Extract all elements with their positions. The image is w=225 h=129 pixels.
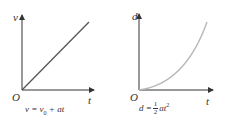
displacement-y-label: d bbox=[132, 11, 138, 22]
displacement-x-label: t bbox=[206, 96, 209, 107]
eq-sup: 2 bbox=[166, 102, 169, 108]
displacement-equation: d =12at2 bbox=[139, 101, 169, 116]
frac-den: 2 bbox=[153, 109, 159, 116]
displacement-curve bbox=[139, 22, 207, 90]
velocity-y-label: v bbox=[13, 12, 18, 23]
velocity-line bbox=[22, 22, 89, 90]
fraction: 12 bbox=[153, 101, 159, 116]
velocity-equation: v = v0 + at bbox=[25, 105, 64, 116]
eq-rhs: + at bbox=[47, 104, 65, 114]
velocity-graph bbox=[22, 15, 94, 90]
velocity-origin-label: O bbox=[12, 92, 20, 103]
displacement-graph bbox=[139, 14, 213, 90]
velocity-x-label: t bbox=[88, 95, 91, 106]
eq-lhs: d = bbox=[139, 103, 152, 113]
eq-lhs: v = v bbox=[25, 104, 44, 114]
displacement-origin-label: O bbox=[130, 92, 138, 103]
